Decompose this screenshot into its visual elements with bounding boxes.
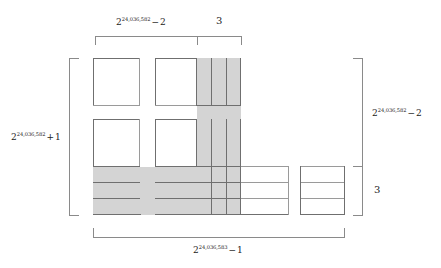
right-upper-term: 2 — [416, 108, 422, 118]
block-middle-left — [93, 119, 140, 167]
right-upper-label: 224,036,582−2 — [372, 108, 422, 118]
right-upper-exponent: 24,036,582 — [378, 107, 407, 113]
top-left-label: 224,036,582−2 — [116, 17, 166, 27]
left-operator: + — [46, 132, 54, 142]
top-left-exponent: 24,036,582 — [122, 16, 151, 22]
top-right-label: 3 — [216, 16, 222, 26]
top-left-term: 2 — [160, 17, 166, 27]
bottom-term: 1 — [237, 245, 243, 255]
top-shaded-column-2 — [212, 58, 226, 106]
top-shaded-column-1 — [197, 58, 211, 106]
bottom-operator: − — [228, 245, 236, 255]
bottom-center-shaded-row-3 — [155, 199, 197, 215]
block-bottom-right-a — [241, 167, 289, 215]
bottom-label: 224,036,583−1 — [193, 245, 243, 255]
bottom-left-shaded-row-1 — [93, 167, 140, 183]
right-upper-operator: − — [407, 108, 415, 118]
bottom-center-shaded-row-1 — [155, 167, 197, 183]
bottom-left-shaded-row-2 — [93, 183, 140, 199]
block-bottom-right-b — [300, 167, 345, 215]
top-shaded-column-3 — [227, 58, 241, 106]
block-top-left — [93, 58, 140, 106]
bottom-center-shaded-row-2 — [155, 183, 197, 199]
top-left-operator: − — [151, 17, 159, 27]
left-exponent: 24,036,582 — [17, 131, 46, 137]
left-label: 224,036,582+1 — [11, 132, 61, 142]
bottom-left-shaded-row-3 — [93, 199, 140, 215]
right-lower-label: 3 — [374, 185, 380, 195]
figure-canvas: 224,036,582−2 3 224,036,582+1 224,036,58… — [0, 0, 441, 268]
block-middle-center — [155, 119, 197, 167]
bottom-exponent: 24,036,583 — [199, 244, 228, 250]
block-top-middle — [155, 58, 197, 106]
left-term: 1 — [55, 132, 61, 142]
